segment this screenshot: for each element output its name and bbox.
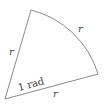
sector-figure: r r r 1 rad: [0, 0, 109, 109]
arc-label: r: [78, 23, 84, 34]
arc: [31, 10, 98, 74]
angle-label: 1 rad: [17, 75, 46, 93]
left-side-label: r: [9, 46, 15, 57]
bottom-side-label: r: [53, 88, 59, 99]
radian-diagram: r r r 1 rad: [0, 0, 109, 109]
